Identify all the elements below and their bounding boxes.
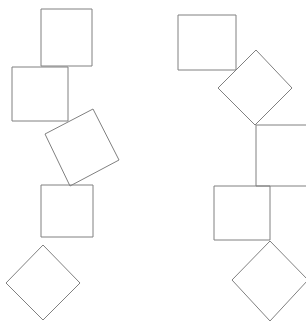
shape-chain-drawing [0, 0, 306, 333]
figure-canvas [0, 0, 306, 333]
canvas-background [0, 0, 306, 333]
